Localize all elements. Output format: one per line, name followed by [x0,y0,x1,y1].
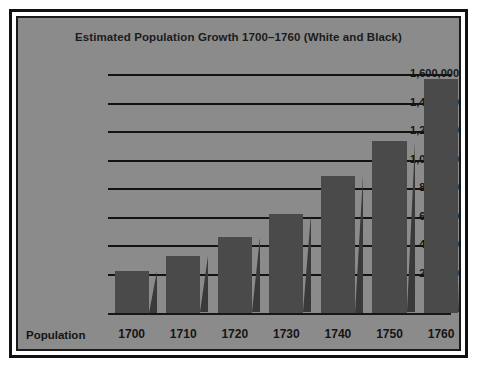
bar [269,214,303,313]
bars-group [108,18,451,349]
bar [166,256,200,313]
bar-side-face [200,256,208,312]
bar [115,271,149,313]
bar-side-face [355,176,363,313]
chart-panel: Estimated Population Growth 1700–1760 (W… [18,18,459,349]
bar-side-face [303,214,311,312]
bar-side-face [407,141,415,312]
x-axis: Population 1700171017201730174017501760 [18,319,459,341]
bar [218,237,252,313]
plot-area: 200,000400,000600,000800,0001,000,0001,2… [18,18,459,349]
bar-side-face [252,237,260,312]
x-axis-label: Population [26,329,85,341]
chart-page: Estimated Population Growth 1700–1760 (W… [0,0,477,367]
bar [372,141,406,313]
chart-inner-frame: Estimated Population Growth 1700–1760 (W… [16,16,461,351]
bar [424,79,458,313]
x-axis-tick-label: 1760 [410,327,461,341]
bar-side-face [149,271,157,313]
bar [321,176,355,313]
bar-side-face [458,79,461,312]
chart-outer-frame: Estimated Population Growth 1700–1760 (W… [9,9,468,358]
